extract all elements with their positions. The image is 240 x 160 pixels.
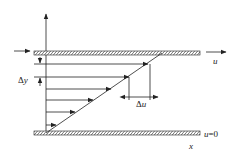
top-plate	[34, 51, 200, 55]
couette-flow-diagram: Δy Δu u u=0 x	[0, 0, 240, 160]
x-axis-label: x	[188, 141, 193, 151]
top-plate-velocity-label: u	[213, 56, 218, 66]
bottom-plate-velocity-label: u=0	[204, 129, 219, 139]
velocity-vectors	[34, 64, 148, 125]
delta-y-label: Δy	[18, 75, 28, 85]
bottom-plate	[34, 131, 200, 135]
delta-u-label: Δu	[136, 99, 147, 109]
velocity-profile-line	[46, 53, 162, 133]
